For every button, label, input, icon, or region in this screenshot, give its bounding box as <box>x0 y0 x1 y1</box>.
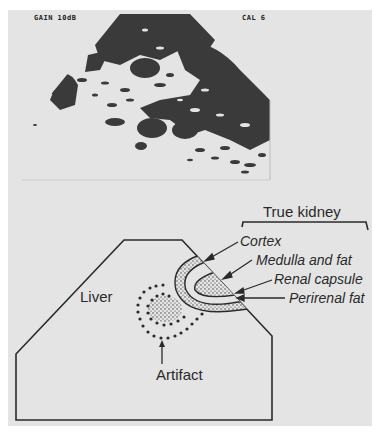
medulla-arrow-icon <box>223 272 232 279</box>
artifact-label: Artifact <box>156 366 203 383</box>
true-kidney-label: True kidney <box>263 203 341 220</box>
artifact-arrow-icon <box>159 340 165 347</box>
liver-label: Liver <box>80 288 113 305</box>
cortex-arrow-icon <box>205 254 214 261</box>
capsule-arrow-icon <box>236 288 244 293</box>
cortex-label: Cortex <box>240 233 281 249</box>
true-kidney-bracket <box>242 222 368 230</box>
medulla-label: Medulla and fat <box>256 252 352 268</box>
liver-outline <box>16 240 272 420</box>
perirenal-fat-label: Perirenal fat <box>289 290 364 306</box>
renal-capsule-label: Renal capsule <box>274 271 363 287</box>
